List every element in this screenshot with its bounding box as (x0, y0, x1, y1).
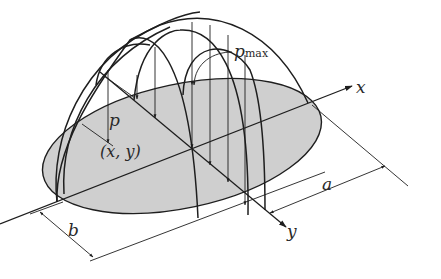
label-a: a (322, 174, 332, 194)
contact-area-ellipse (30, 56, 334, 236)
label-y-axis: y (286, 221, 297, 241)
label-b: b (68, 220, 79, 240)
label-point-xy: (x, y) (100, 142, 141, 161)
label-pmax: pmax (234, 41, 269, 61)
label-pressure: p (109, 110, 120, 130)
label-x-axis: x (356, 77, 366, 97)
pressure-distribution-diagram: pmax x p (x, y) a b y (0, 0, 441, 279)
